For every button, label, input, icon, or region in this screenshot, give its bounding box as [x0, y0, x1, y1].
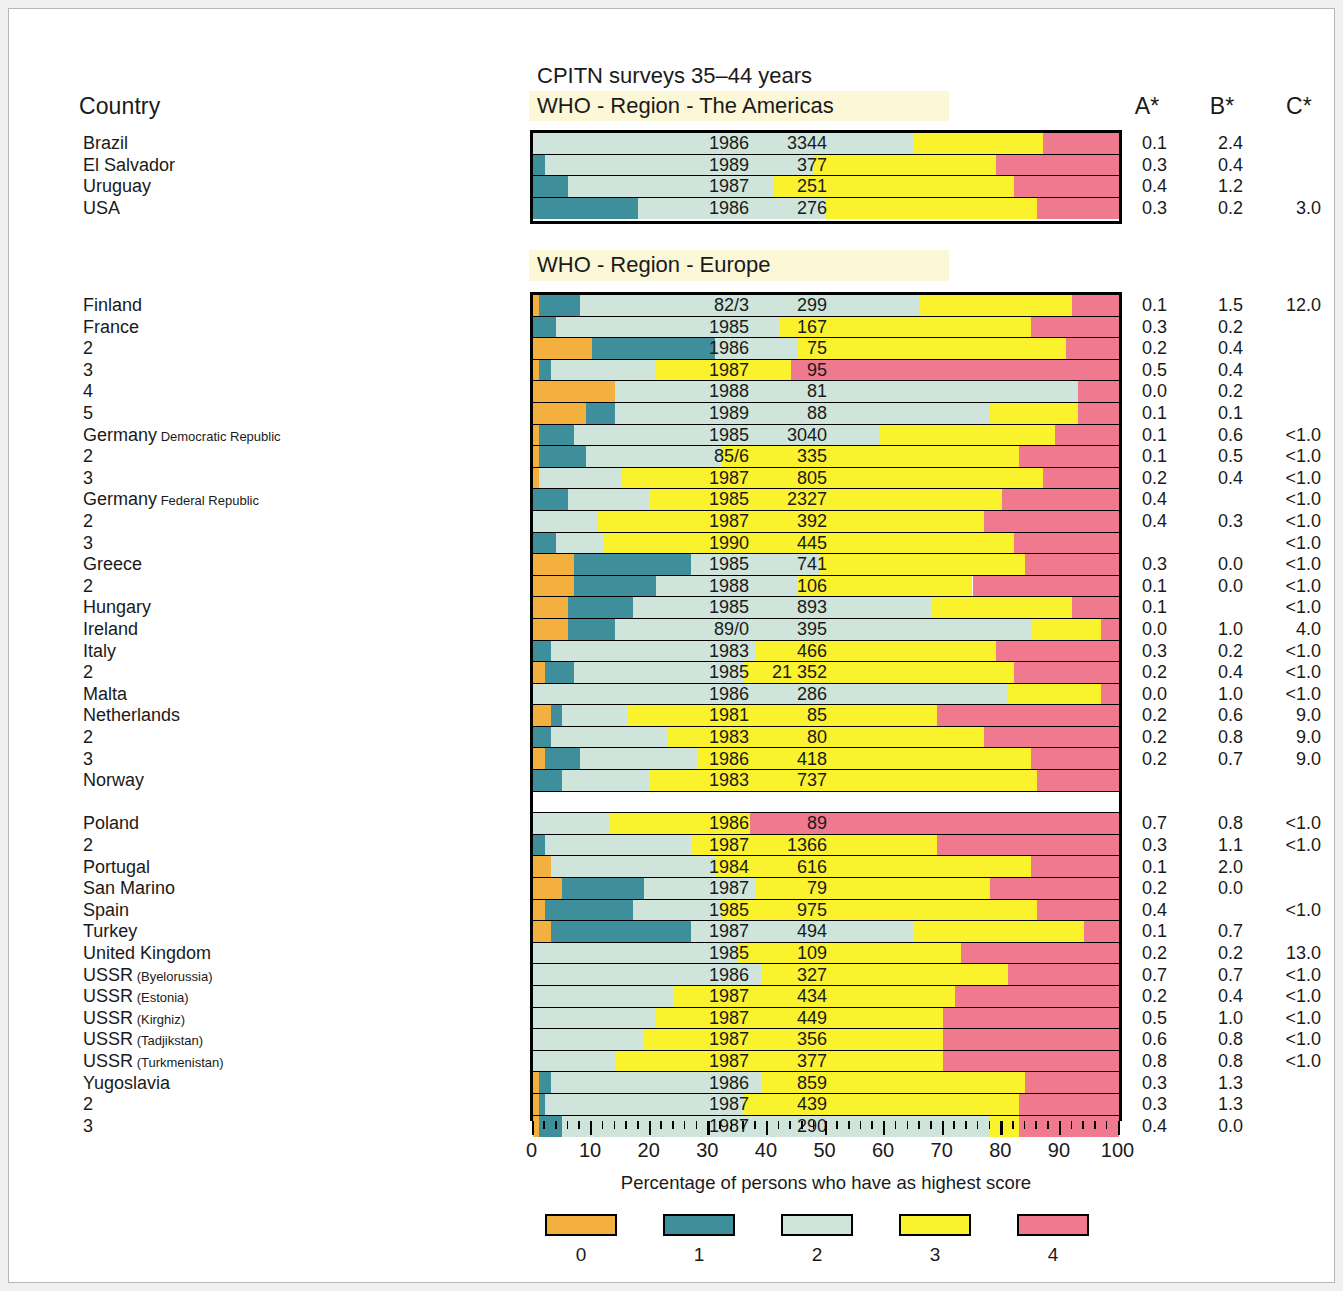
row-n: 2327 — [759, 489, 827, 511]
bar-segment-score-2 — [539, 468, 621, 489]
bar-segment-score-4 — [791, 360, 1119, 381]
bar-segment-score-4 — [1025, 1072, 1119, 1093]
bar-segment-score-1 — [533, 727, 551, 748]
row-b-value: 2.4 — [1203, 133, 1243, 155]
axis-tick-label: 100 — [1088, 1139, 1148, 1162]
axis-tick-minor — [930, 1121, 932, 1129]
bar-segment-score-3 — [914, 133, 1043, 154]
row-b-value: 0.4 — [1203, 338, 1243, 360]
row-a-value: 0.1 — [1127, 597, 1167, 619]
row-country: Poland — [83, 813, 503, 835]
axis-tick-major — [766, 1121, 768, 1135]
row-year: 1986 — [685, 684, 749, 706]
row-b-value: 0.8 — [1203, 727, 1243, 749]
bar-segment-score-4 — [1008, 964, 1119, 985]
country-subtitle: Federal Republic — [157, 493, 259, 508]
region-band-europe: WHO - Region - Europe — [529, 250, 949, 281]
bar-row-spacer — [533, 792, 1119, 814]
bar-segment-score-4 — [1078, 381, 1119, 402]
row-c-value: <1.0 — [1267, 641, 1321, 663]
row-country: Netherlands — [83, 705, 503, 727]
axis-tick-minor — [1047, 1121, 1049, 1129]
legend-item: 4 — [1006, 1214, 1100, 1266]
bar-segment-score-4 — [1101, 619, 1119, 640]
bar-segment-score-2 — [533, 986, 674, 1007]
row-b-value: 0.4 — [1203, 986, 1243, 1008]
bar-segment-score-3 — [1031, 619, 1101, 640]
row-year: 1983 — [685, 641, 749, 663]
row-year: 1984 — [685, 857, 749, 879]
axis-tick-minor — [801, 1121, 803, 1129]
row-n: 81 — [759, 381, 827, 403]
row-year: 1986 — [685, 133, 749, 155]
row-c-value: 9.0 — [1267, 705, 1321, 727]
axis-tick-minor — [907, 1121, 909, 1129]
row-country: USSR (Byelorussia) — [83, 965, 503, 987]
row-a-value: 0.4 — [1127, 489, 1167, 511]
row-b-value: 0.2 — [1203, 381, 1243, 403]
legend-swatch-score-4 — [1017, 1214, 1089, 1236]
row-b-value: 0.4 — [1203, 155, 1243, 177]
row-country: 4 — [83, 381, 503, 403]
bar-segment-score-4 — [984, 727, 1119, 748]
bar-segment-score-1 — [545, 748, 580, 769]
axis-tick-label: 80 — [970, 1139, 1030, 1162]
axis-tick-minor — [977, 1121, 979, 1129]
x-axis-ticks — [530, 1121, 1122, 1135]
row-year: 85/6 — [685, 446, 749, 468]
row-c-value: 3.0 — [1267, 198, 1321, 220]
column-header-a: A* — [1129, 93, 1165, 120]
axis-tick-label: 10 — [560, 1139, 620, 1162]
axis-tick-minor — [742, 1121, 744, 1129]
row-a-value: 0.2 — [1127, 468, 1167, 490]
row-a-value: 0.3 — [1127, 835, 1167, 857]
row-a-value: 0.8 — [1127, 1051, 1167, 1073]
axis-tick-minor — [1012, 1121, 1014, 1129]
row-year: 1986 — [685, 749, 749, 771]
bar-segment-score-4 — [1019, 1094, 1119, 1115]
bar-segment-score-1 — [533, 489, 568, 510]
bar-segment-score-1 — [539, 360, 551, 381]
axis-tick-major — [649, 1121, 651, 1135]
axis-tick-minor — [789, 1121, 791, 1129]
axis-tick-label: 30 — [677, 1139, 737, 1162]
chart-title: CPITN surveys 35–44 years — [537, 63, 812, 89]
bar-segment-score-3 — [931, 597, 1072, 618]
row-b-value: 0.4 — [1203, 468, 1243, 490]
row-c-value: <1.0 — [1267, 813, 1321, 835]
bar-segment-score-0 — [533, 619, 568, 640]
row-country: Yugoslavia — [83, 1073, 503, 1095]
row-a-value: 0.5 — [1127, 360, 1167, 382]
column-header-country: Country — [79, 93, 160, 120]
row-b-value: 1.5 — [1203, 295, 1243, 317]
row-n: 805 — [759, 468, 827, 490]
row-b-value: 0.6 — [1203, 425, 1243, 447]
bar-segment-score-0 — [533, 748, 545, 769]
bar-segment-score-2 — [533, 511, 597, 532]
bar-segment-score-2 — [562, 705, 626, 726]
axis-tick-minor — [754, 1121, 756, 1129]
column-header-b: B* — [1204, 93, 1240, 120]
bar-segment-score-1 — [533, 176, 568, 197]
row-n: 88 — [759, 403, 827, 425]
bar-segment-score-2 — [533, 1051, 615, 1072]
row-country: 2 — [83, 338, 503, 360]
axis-tick-label: 50 — [795, 1139, 855, 1162]
row-a-value: 0.2 — [1127, 727, 1167, 749]
bar-segment-score-1 — [574, 576, 656, 597]
axis-tick-minor — [1082, 1121, 1084, 1129]
bar-segment-score-2 — [556, 533, 603, 554]
row-a-value: 0.7 — [1127, 965, 1167, 987]
row-n: 741 — [759, 554, 827, 576]
country-subtitle: Democratic Republic — [157, 429, 281, 444]
row-a-value: 0.4 — [1127, 1116, 1167, 1138]
bar-segment-score-2 — [568, 489, 650, 510]
row-b-value: 0.8 — [1203, 1029, 1243, 1051]
bar-segment-score-4 — [943, 1051, 1119, 1072]
bar-segment-score-1 — [551, 921, 692, 942]
row-country: 2 — [83, 446, 503, 468]
row-a-value: 0.3 — [1127, 641, 1167, 663]
row-c-value: <1.0 — [1267, 900, 1321, 922]
row-country: Brazil — [83, 133, 503, 155]
row-a-value: 0.1 — [1127, 576, 1167, 598]
